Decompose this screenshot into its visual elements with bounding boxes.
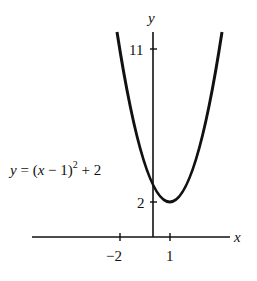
y-axis-label: y: [146, 10, 155, 26]
parabola-chart: y x 11 2 −2 1 y = (x − 1)2 + 2: [0, 0, 257, 281]
x-axis-label: x: [233, 229, 241, 245]
y-tick-label-11: 11: [129, 42, 143, 58]
y-tick-label-2: 2: [137, 195, 145, 211]
x-tick-label-1: 1: [166, 248, 174, 264]
equation-label: y = (x − 1)2 + 2: [8, 159, 101, 179]
x-tick-label-neg2: −2: [106, 248, 122, 264]
